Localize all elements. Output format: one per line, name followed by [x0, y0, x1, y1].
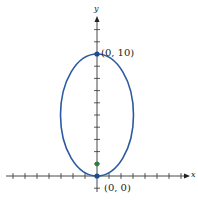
- point-top-vertex: [94, 51, 99, 56]
- label-origin: (0, 0): [104, 182, 131, 193]
- y-axis-label: y: [94, 4, 99, 13]
- point-origin: [94, 173, 99, 178]
- graph-canvas: [0, 0, 198, 201]
- y-axis-arrow-icon: [95, 16, 100, 22]
- x-axis-label: x: [191, 170, 196, 179]
- point-focus: [95, 162, 100, 167]
- x-axis-arrow-icon: [184, 174, 190, 179]
- label-top-vertex: (0, 10): [101, 47, 134, 58]
